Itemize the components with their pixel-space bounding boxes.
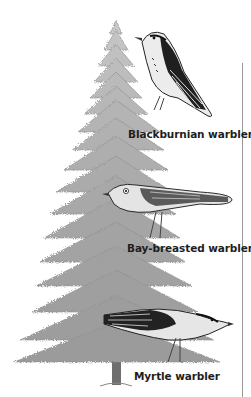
spruce-tree-illustration xyxy=(0,0,251,397)
myrtle-warbler-label: Myrtle warbler xyxy=(134,370,220,382)
blackburnian-warbler-label: Blackburnian warbler xyxy=(128,128,251,140)
blackburnian-warbler-illustration xyxy=(134,32,212,116)
warbler-tree-illustration: Blackburnian warbler Bay-breasted warble… xyxy=(0,0,251,397)
bay-breasted-warbler-label: Bay-breasted warbler xyxy=(127,242,251,254)
right-edge-divider xyxy=(242,63,243,397)
